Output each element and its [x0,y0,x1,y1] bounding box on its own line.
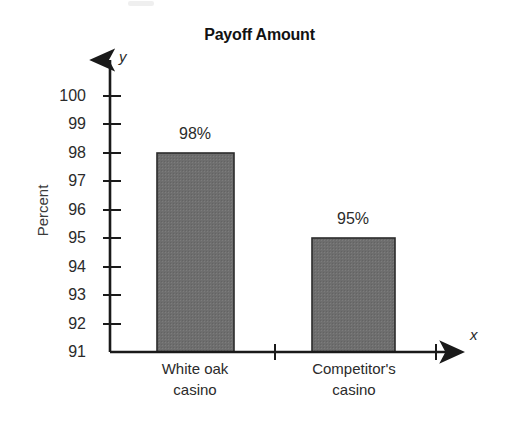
category-label-line-2: casino [115,379,275,400]
y-tick-label-98: 98 [40,145,86,161]
y-tick-label-99: 99 [40,116,86,132]
category-label-line-2: casino [274,379,434,400]
x-axis-letter: x [470,326,478,343]
y-tick-label-97: 97 [40,173,86,189]
chart-figure: Payoff Amount [0,0,519,432]
y-tick-label-100: 100 [40,88,86,104]
category-label-line-1: White oak [115,358,275,379]
y-tick-label-94: 94 [40,259,86,275]
bar-competitors-casino [312,238,395,352]
y-tick-label-91: 91 [40,344,86,360]
y-tick-label-96: 96 [40,202,86,218]
bar-rect [312,238,395,352]
bar-value-label-competitors-casino: 95% [298,210,408,228]
y-tick-label-93: 93 [40,287,86,303]
category-label-line-1: Competitor's [274,358,434,379]
y-axis-letter: y [119,48,127,65]
category-label-white-oak-casino: White oak casino [115,358,275,400]
bar-white-oak-casino [157,153,234,352]
category-label-competitors-casino: Competitor's casino [274,358,434,400]
y-tick-label-92: 92 [40,316,86,332]
bar-rect [157,153,234,352]
y-tick-label-95: 95 [40,230,86,246]
bar-value-label-white-oak-casino: 98% [140,125,250,143]
y-tick-marks [103,96,121,324]
